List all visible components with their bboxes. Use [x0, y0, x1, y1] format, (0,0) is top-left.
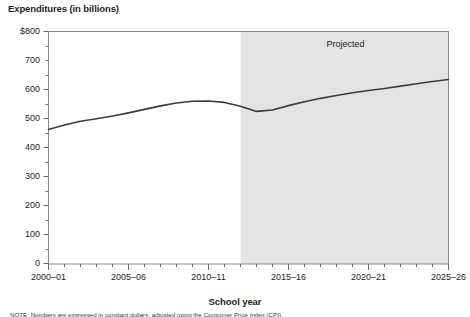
y-tick-label: 400 [0, 142, 40, 152]
x-tick-label: 2020–21 [334, 272, 404, 282]
projected-shaded-region [241, 31, 449, 264]
y-axis-ticks [44, 32, 49, 264]
y-tick-label: $800 [0, 26, 40, 36]
y-tick-label: 100 [0, 229, 40, 239]
y-tick-label: 300 [0, 171, 40, 181]
projected-annotation-label: Projected [327, 39, 365, 49]
x-axis-ticks [49, 264, 449, 270]
x-tick-label: 2005–06 [94, 272, 164, 282]
x-tick-label: 2010–11 [174, 272, 244, 282]
y-tick-label: 200 [0, 200, 40, 210]
x-tick-label: 2000–01 [14, 272, 84, 282]
x-tick-label: 2025–26 [414, 272, 470, 282]
plot-area-svg [0, 0, 470, 317]
y-tick-label: 600 [0, 84, 40, 94]
x-tick-label: 2015–16 [254, 272, 324, 282]
y-tick-label: 0 [0, 258, 40, 268]
chart-footnote: NOTE: Numbers are expressed in constant … [10, 311, 462, 317]
x-axis-title: School year [0, 296, 470, 307]
chart-figure: Expenditures (in billions) [0, 0, 470, 317]
y-tick-label: 700 [0, 55, 40, 65]
y-tick-label: 500 [0, 113, 40, 123]
